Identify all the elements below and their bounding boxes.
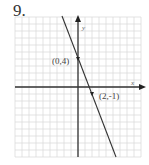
point-label-0-4: (0,4)	[52, 56, 69, 66]
coordinate-plane: (0,4) (2,-1) x y	[0, 0, 149, 165]
point-label-2-neg1: (2,-1)	[99, 91, 119, 101]
y-axis-arrow-icon	[75, 15, 81, 22]
x-axis-arrow-icon	[139, 84, 146, 90]
